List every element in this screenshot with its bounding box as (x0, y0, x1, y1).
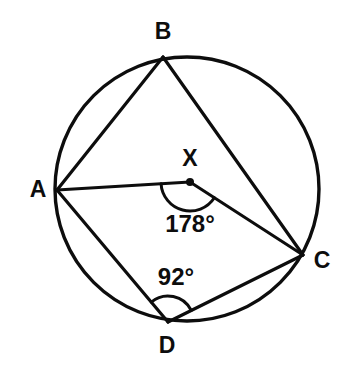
point-label-d: D (159, 332, 176, 358)
point-label-a: A (30, 176, 47, 202)
angle-measure-92: 92° (158, 263, 194, 290)
angle-arc-at-x (161, 184, 214, 211)
angle-arcs-group (151, 184, 214, 311)
geometry-figure: A B C D X 178° 92° (0, 0, 351, 374)
point-label-b: B (155, 18, 172, 44)
center-point-dot-x (186, 178, 194, 186)
point-label-c: C (314, 247, 331, 273)
angle-labels-group: 178° 92° (158, 210, 215, 290)
angle-measure-178: 178° (165, 210, 215, 237)
point-label-x: X (182, 145, 198, 171)
radius-ax (57, 182, 190, 190)
circle-geometry-diagram: A B C D X 178° 92° (0, 0, 351, 374)
